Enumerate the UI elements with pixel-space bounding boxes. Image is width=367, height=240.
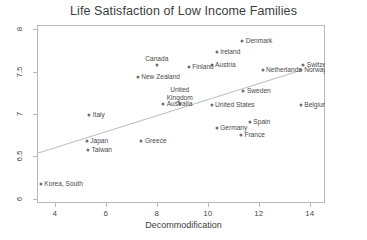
x-axis-tick-mark: [157, 203, 158, 207]
x-axis-tick-mark: [55, 203, 56, 207]
y-axis-tick-label: 6.5: [11, 150, 29, 162]
data-point-marker: [88, 113, 91, 116]
y-axis-tick-mark: [33, 156, 37, 157]
y-axis-tick-label: 7: [11, 108, 29, 120]
x-axis-tick-mark: [106, 203, 107, 207]
x-axis-tick-label: 8: [155, 209, 159, 218]
data-point-marker: [162, 102, 165, 105]
data-point-marker: [136, 75, 139, 78]
data-point-label: United States: [215, 101, 255, 108]
x-axis-tick-label: 6: [104, 209, 108, 218]
data-point-marker: [215, 127, 218, 130]
data-point-label: Spain: [253, 118, 270, 125]
x-axis-tick-label: 10: [203, 209, 212, 218]
y-axis-tick-mark: [33, 29, 37, 30]
y-axis-tick-mark: [33, 114, 37, 115]
data-point-label: Australia: [167, 100, 193, 107]
data-point-label: Finland: [192, 64, 214, 71]
data-point-label: Japan: [90, 137, 108, 144]
y-axis-tick-label: 6: [11, 193, 29, 205]
data-point-label: Taiwan: [91, 146, 112, 153]
data-point-label: Belgium: [304, 101, 325, 108]
y-axis-tick-label-text: 7.5: [14, 63, 26, 81]
x-axis-tick-label: 12: [254, 209, 263, 218]
data-point-marker: [85, 140, 88, 143]
data-point-label: Sweden: [247, 87, 271, 94]
data-point-label: Greece: [145, 137, 167, 144]
data-point-marker: [248, 120, 251, 123]
x-axis-tick-label: 4: [53, 209, 57, 218]
data-point-marker: [241, 40, 244, 43]
data-point-label: Austria: [215, 61, 236, 68]
y-axis-tick-label-text: 6: [14, 190, 26, 208]
data-point-marker: [239, 134, 242, 137]
y-axis-tick-label: 7.5: [11, 66, 29, 78]
x-axis-tick-mark: [208, 203, 209, 207]
data-point-marker: [86, 148, 89, 151]
y-axis-tick-label-text: 7: [14, 105, 26, 123]
data-point-label: France: [244, 131, 265, 138]
data-point-label: New Zealand: [141, 73, 180, 80]
data-point-marker: [215, 51, 218, 54]
data-point-marker: [261, 68, 264, 71]
x-axis-tick-mark: [259, 203, 260, 207]
data-point-label: Italy: [93, 111, 105, 118]
data-point-label: Denmark: [246, 37, 273, 44]
scatter-plot-figure: Life Satisfaction of Low Income Families…: [0, 0, 367, 240]
y-axis-tick-mark: [33, 199, 37, 200]
data-point-label: Korea, South: [44, 181, 83, 188]
x-axis-title: Decommodification: [0, 220, 367, 230]
y-axis-tick-mark: [33, 72, 37, 73]
data-point-label: Ireland: [220, 48, 240, 55]
data-point-marker: [242, 90, 245, 93]
data-point-marker: [39, 183, 42, 186]
x-axis-tick-mark: [310, 203, 311, 207]
data-point-marker: [299, 103, 302, 106]
y-axis-tick-label: 8: [11, 23, 29, 35]
chart-title: Life Satisfaction of Low Income Families: [0, 4, 367, 18]
y-axis-tick-label-text: 6.5: [14, 147, 26, 165]
data-point-marker: [210, 103, 213, 106]
x-axis-tick-label: 14: [305, 209, 314, 218]
data-point-marker: [299, 68, 302, 71]
data-point-marker: [140, 140, 143, 143]
data-point-label: Norway: [304, 66, 325, 73]
plot-area: DenmarkIrelandCanadaSwitzerlandAustriaFi…: [37, 25, 325, 203]
data-point-label: United Kingdom: [167, 87, 193, 102]
data-point-marker: [187, 66, 190, 69]
data-point-label: Germany: [220, 125, 247, 132]
y-axis-tick-label-text: 8: [14, 20, 26, 38]
data-point-label: Netherlands: [266, 66, 302, 73]
data-point-marker: [155, 63, 158, 66]
data-point-label: Canada: [145, 55, 168, 62]
